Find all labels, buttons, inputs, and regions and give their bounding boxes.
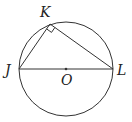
label-k: K (39, 4, 52, 20)
segment-kl (50, 24, 113, 69)
label-j: J (2, 62, 12, 78)
label-l: L (116, 62, 126, 78)
right-angle-marker (47, 28, 55, 33)
circle-diagram: K J L O (0, 0, 132, 122)
label-o: O (61, 72, 73, 88)
segment-jk (19, 24, 50, 69)
center-point-o (65, 68, 68, 71)
